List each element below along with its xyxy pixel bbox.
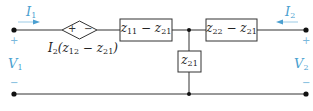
terminal-port2-bottom <box>303 91 308 96</box>
terminal-port2-top <box>303 27 308 32</box>
current-label-i1: I1 <box>26 4 36 20</box>
z-subscript: 21 <box>247 27 257 36</box>
voltage-label-v1: V1 <box>8 56 22 72</box>
z-subscript: 21 <box>188 59 198 68</box>
current-label-i2: I2 <box>285 4 295 20</box>
i1-subscript: 1 <box>31 11 36 20</box>
impedance-label-z11-z21: z11 − z21 <box>120 21 172 36</box>
arrow-right-icon <box>33 20 40 25</box>
impedance-label-z22-z21: z22 − z21 <box>206 21 257 36</box>
z-subscript: 21 <box>161 27 171 36</box>
v2-symbol: V <box>294 56 303 71</box>
source-label-close: ) <box>113 41 118 55</box>
junction-top <box>187 28 191 32</box>
voltage-label-v2: V2 <box>294 56 308 72</box>
source-label-sub-b: 21 <box>103 47 113 56</box>
port2-minus-sign: − <box>302 77 310 88</box>
v2-subscript: 2 <box>303 63 308 72</box>
v1-symbol: V <box>8 56 17 71</box>
terminal-port1-bottom <box>11 91 16 96</box>
impedance-label-z21: z21 <box>178 53 201 68</box>
source-minus-sign: − <box>84 23 92 34</box>
port2-plus-sign: + <box>302 35 310 46</box>
dependent-source-label: I2(z12 − z21) <box>48 41 118 56</box>
source-plus-sign: + <box>68 23 76 34</box>
v1-subscript: 1 <box>17 63 22 72</box>
circuit-diagram <box>0 0 313 111</box>
source-label-open: (z <box>58 41 69 55</box>
z-subscript: 11 <box>127 27 137 36</box>
minus-operator: − <box>137 21 155 35</box>
z-subscript: 22 <box>212 27 222 36</box>
source-label-mid: − z <box>79 41 103 55</box>
minus-operator: − <box>223 21 241 35</box>
junction-bottom <box>187 92 191 96</box>
port1-plus-sign: + <box>10 35 18 46</box>
arrow-left-icon <box>276 20 283 25</box>
port1-minus-sign: − <box>10 77 18 88</box>
source-label-sub-a: 12 <box>69 47 79 56</box>
i2-subscript: 2 <box>290 11 295 20</box>
terminal-port1-top <box>11 27 16 32</box>
